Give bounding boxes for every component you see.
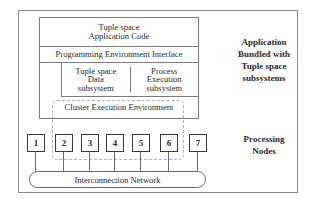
wire-7 [197,152,198,172]
process-subsystem-line-3: subsystem [146,84,182,93]
data-subsystem: Tuple space Data subsystem [62,67,130,93]
data-subsystem-line-3: subsystem [78,84,114,93]
node-6: 6 [160,134,178,152]
app-label-line-3: Tuple space [232,60,296,72]
wire-1 [35,152,36,172]
proc-label-line-2: Nodes [232,145,296,157]
process-subsystem: Process Execution subsystem [130,67,199,93]
app-label-line-1: Application [232,36,296,48]
node-4: 4 [106,134,124,152]
processing-side-label: Processing Nodes [232,133,296,157]
node-2: 2 [55,134,73,152]
wire-5 [140,152,141,172]
application-side-label: Application Bundled with Tuple space sub… [232,36,296,84]
wire-6 [168,152,169,172]
wire-2 [63,152,64,172]
wire-3 [89,152,90,172]
network-label: Interconnection Network [74,175,160,185]
interconnection-network: Interconnection Network [29,171,206,188]
app-code-line-2: Application Code [89,32,150,42]
node-1: 1 [27,134,45,152]
proc-label-line-1: Processing [232,133,296,145]
programming-interface-label: Programming Environment Interface [56,50,183,60]
app-label-line-2: Bundled with [232,48,296,60]
wire-4 [114,152,115,172]
application-code-layer: Tuple space Application Code [40,18,198,47]
programming-interface-layer: Programming Environment Interface [40,47,198,63]
subsystems-layer: Tuple space Data subsystem Process Execu… [61,63,198,97]
app-label-line-4: subsystems [232,72,296,84]
node-3: 3 [81,134,99,152]
node-7: 7 [189,134,207,152]
node-5: 5 [132,134,150,152]
